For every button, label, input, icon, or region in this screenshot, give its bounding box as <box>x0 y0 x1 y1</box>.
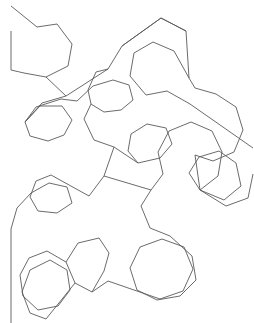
background-rect <box>0 0 254 323</box>
fractal-curve-svg <box>0 0 254 323</box>
figure-canvas <box>0 0 254 323</box>
